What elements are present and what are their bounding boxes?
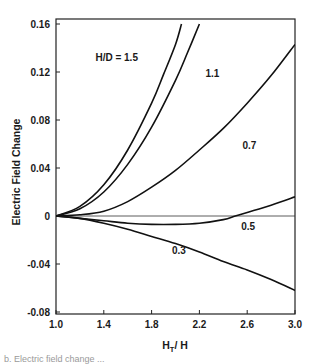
annotations: H/D = 1.51.10.70.50.3 xyxy=(95,52,256,256)
axis-ticks: 1.01.41.82.22.63.00.160.120.080.040-0.04… xyxy=(27,19,302,331)
y-tick-label: 0.12 xyxy=(31,67,51,78)
caption-fragment: b. Electric field change ... xyxy=(4,354,105,364)
y-axis-title: Electric Field Change xyxy=(10,118,22,225)
y-tick-label: 0 xyxy=(44,211,50,222)
x-tick-label: 1.0 xyxy=(49,319,63,330)
y-tick-label: 0.04 xyxy=(31,163,51,174)
series-line xyxy=(56,44,295,216)
y-tick-label: 0.16 xyxy=(31,19,51,30)
x-tick-label: 2.6 xyxy=(240,319,254,330)
x-tick-label: 3.0 xyxy=(288,319,302,330)
x-tick-label: 2.2 xyxy=(192,319,206,330)
y-tick-label: -0.08 xyxy=(27,307,50,318)
series-annotation: 0.3 xyxy=(172,245,186,256)
y-tick-label: 0.08 xyxy=(31,115,51,126)
x-tick-label: 1.4 xyxy=(97,319,111,330)
series-annotation: H/D = 1.5 xyxy=(95,52,138,63)
x-axis-title-main: H xyxy=(162,339,170,351)
x-axis-title: HT/ H xyxy=(162,339,188,354)
x-axis-title-rest: / H xyxy=(174,339,187,351)
series-annotation: 0.7 xyxy=(242,140,256,151)
plot-border xyxy=(56,19,295,314)
x-tick-label: 1.8 xyxy=(145,319,159,330)
series-annotation: 0.5 xyxy=(241,221,255,232)
y-tick-label: -0.04 xyxy=(27,259,50,270)
line-chart: 1.01.41.82.22.63.00.160.120.080.040-0.04… xyxy=(0,0,315,364)
plot-frame xyxy=(56,19,295,314)
series-annotation: 1.1 xyxy=(205,68,219,79)
